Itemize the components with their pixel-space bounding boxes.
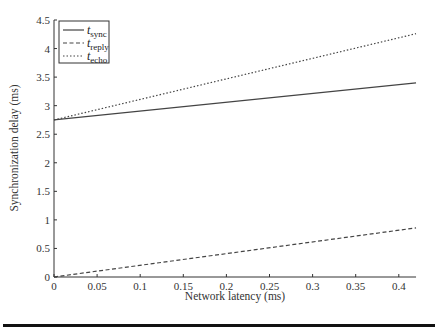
series-lines bbox=[54, 34, 416, 277]
y-tick-label: 2 bbox=[45, 157, 51, 169]
y-tick-label: 4.5 bbox=[36, 14, 50, 26]
y-tick-label: 0.5 bbox=[36, 242, 50, 254]
y-tick-label: 3.5 bbox=[36, 71, 50, 83]
series-t-reply bbox=[54, 228, 416, 277]
y-tick-label: 1 bbox=[45, 214, 51, 226]
x-axis-label: Network latency (ms) bbox=[185, 290, 285, 303]
series-t-sync bbox=[54, 83, 416, 120]
x-tick-label: 0 bbox=[51, 280, 57, 292]
y-tick-label: 0 bbox=[45, 271, 51, 283]
line-chart: 00.050.10.150.20.250.30.350.400.511.522.… bbox=[0, 0, 440, 330]
x-tick-label: 0.4 bbox=[392, 280, 406, 292]
y-tick-label: 2.5 bbox=[36, 128, 50, 140]
y-axis-label: Synchronization delay (ms) bbox=[8, 84, 21, 211]
x-tick-label: 0.3 bbox=[306, 280, 320, 292]
y-tick-label: 1.5 bbox=[36, 185, 50, 197]
x-tick-label: 0.05 bbox=[87, 280, 107, 292]
bottom-rule bbox=[3, 324, 435, 327]
y-tick-label: 4 bbox=[45, 43, 51, 55]
y-tick-label: 3 bbox=[45, 100, 51, 112]
x-tick-label: 0.1 bbox=[133, 280, 147, 292]
x-tick-label: 0.35 bbox=[346, 280, 366, 292]
legend: tsynctreplytecho bbox=[59, 21, 109, 65]
